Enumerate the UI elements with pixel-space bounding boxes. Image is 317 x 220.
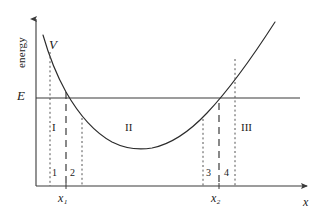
potential-energy-diagram: [0, 0, 317, 220]
y-axis-label: energy: [16, 23, 27, 83]
zone-label-4: 4: [224, 168, 229, 178]
region-label-III: III: [241, 122, 252, 133]
x-axis-label: x: [303, 196, 308, 208]
x-tick-label-x2: x₂: [211, 192, 221, 204]
zone-label-2: 2: [70, 168, 75, 178]
region-label-I: I: [52, 122, 56, 133]
figure-container: energy V E x x₁ x₂ I II III 1 2 3 4: [0, 0, 317, 220]
zone-label-3: 3: [206, 168, 211, 178]
x-tick-label-x1: x₁: [58, 192, 68, 204]
energy-level-label: E: [17, 89, 25, 102]
region-label-II: II: [125, 122, 132, 133]
zone-label-1: 1: [52, 168, 57, 178]
potential-curve-label: V: [49, 38, 57, 51]
